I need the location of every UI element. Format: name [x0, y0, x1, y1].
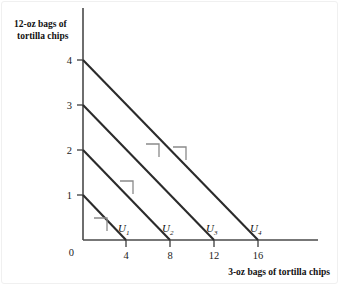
y-tick-label-3: 3 — [67, 100, 72, 111]
slope-marker-u1 — [94, 218, 107, 231]
x-tick-label-8: 8 — [167, 250, 172, 261]
y-tick-label-4: 4 — [67, 55, 73, 66]
indifference-curve-chart: 12-oz bags of tortilla chips 4 3 2 1 0 4… — [0, 0, 356, 292]
indifference-curve-u3 — [83, 105, 214, 240]
slope-marker-u2 — [120, 181, 133, 194]
y-axis-title-line1: 12-oz bags of — [14, 19, 68, 29]
svg-text:1: 1 — [126, 229, 130, 237]
y-tick-label-1: 1 — [67, 190, 72, 201]
y-axis-title-line2: tortilla chips — [17, 31, 69, 41]
svg-text:3: 3 — [213, 229, 218, 237]
x-tick-label-16: 16 — [253, 250, 264, 261]
svg-text:4: 4 — [258, 229, 262, 237]
x-axis-title: 3-oz bags of tortilla chips — [228, 267, 330, 277]
indifference-curve-u4 — [83, 60, 258, 240]
figure-card: 12-oz bags of tortilla chips 4 3 2 1 0 4… — [0, 0, 356, 292]
y-tick-label-2: 2 — [67, 145, 72, 156]
x-tick-label-12: 12 — [209, 250, 220, 261]
x-tick-label-4: 4 — [123, 250, 129, 261]
indifference-curve-u2 — [83, 150, 170, 240]
origin-label: 0 — [69, 247, 74, 258]
slope-marker-u3 — [146, 144, 159, 157]
svg-text:2: 2 — [170, 229, 174, 237]
